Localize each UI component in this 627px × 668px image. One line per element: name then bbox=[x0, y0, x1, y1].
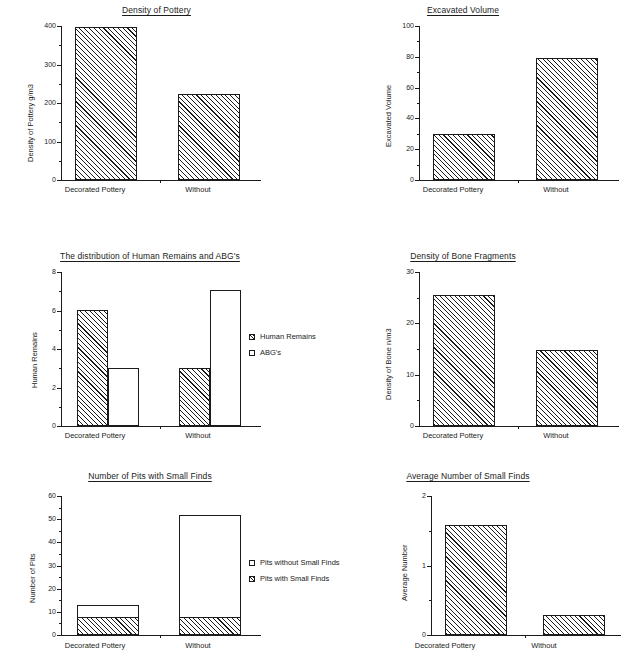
x-axis bbox=[61, 426, 261, 427]
y-minor-tick bbox=[59, 554, 62, 555]
y-minor-tick bbox=[429, 600, 432, 601]
y-minor-tick bbox=[59, 84, 62, 85]
bar-decorated-pottery bbox=[433, 295, 495, 426]
y-axis-title: Density of Pottery g/m3 bbox=[26, 84, 35, 162]
y-minor-tick bbox=[417, 72, 420, 73]
x-axis bbox=[419, 426, 619, 427]
y-tick-label: 8 bbox=[38, 268, 56, 275]
y-tick-label: 1 bbox=[408, 562, 426, 569]
x-category-label: Decorated Pottery bbox=[45, 431, 145, 440]
x-tick-divider bbox=[518, 426, 519, 429]
y-axis-title: Number of Pits bbox=[28, 553, 37, 603]
y-tick-0 bbox=[427, 635, 431, 636]
y-tick-6 bbox=[57, 311, 61, 312]
y-tick-100 bbox=[57, 142, 61, 143]
y-minor-tick bbox=[417, 298, 420, 299]
y-tick-1 bbox=[427, 566, 431, 567]
plot-area bbox=[61, 496, 261, 636]
y-tick-label: 20 bbox=[392, 319, 414, 326]
bar-without bbox=[543, 615, 605, 635]
y-tick-label: 200 bbox=[34, 99, 56, 106]
y-tick-label: 300 bbox=[34, 61, 56, 68]
legend-swatch-hatched-icon bbox=[249, 576, 255, 582]
y-minor-tick bbox=[417, 165, 420, 166]
legend-item-human-remains: Human Remains bbox=[249, 332, 316, 341]
y-minor-tick bbox=[429, 531, 432, 532]
chart-title: Density of Bone Fragments bbox=[333, 251, 593, 261]
y-axis bbox=[431, 496, 432, 636]
y-tick-40 bbox=[415, 118, 419, 119]
x-category-label: Decorated Pottery bbox=[395, 641, 495, 650]
y-tick-label: 0 bbox=[392, 176, 414, 183]
y-minor-tick bbox=[59, 531, 62, 532]
y-minor-tick bbox=[417, 103, 420, 104]
plot-area bbox=[61, 26, 261, 181]
x-category-label: Without bbox=[148, 185, 248, 194]
x-category-label: Without bbox=[506, 431, 606, 440]
y-axis bbox=[61, 26, 62, 181]
y-tick-0 bbox=[415, 180, 419, 181]
y-minor-tick bbox=[417, 349, 420, 350]
y-tick-label: 100 bbox=[34, 138, 56, 145]
y-tick-30 bbox=[57, 566, 61, 567]
bar-decorated-human-remains bbox=[77, 310, 108, 426]
plot-area bbox=[431, 496, 621, 636]
chart-panel-number-of-pits-with-small-finds: Number of Pits with Small Finds 60 50 40… bbox=[0, 468, 313, 668]
y-tick-label: 4 bbox=[38, 345, 56, 352]
x-axis bbox=[61, 635, 261, 636]
y-tick-label: 2 bbox=[408, 492, 426, 499]
y-tick-30 bbox=[415, 272, 419, 273]
y-tick-20 bbox=[57, 589, 61, 590]
x-axis bbox=[61, 180, 261, 181]
y-axis-title: Average Number bbox=[400, 544, 409, 601]
y-minor-tick bbox=[59, 407, 62, 408]
chart-title: The distribution of Human Remains and AB… bbox=[10, 251, 290, 261]
legend: Human Remains ABG's bbox=[249, 332, 316, 364]
y-tick-0 bbox=[57, 180, 61, 181]
y-minor-tick bbox=[417, 134, 420, 135]
y-tick-40 bbox=[57, 542, 61, 543]
bar-decorated-abgs bbox=[108, 368, 139, 426]
y-tick-label: 80 bbox=[392, 53, 414, 60]
y-minor-tick bbox=[417, 41, 420, 42]
y-axis bbox=[61, 272, 62, 427]
y-tick-label: 60 bbox=[392, 84, 414, 91]
y-tick-2 bbox=[57, 388, 61, 389]
y-tick-2 bbox=[427, 496, 431, 497]
y-tick-4 bbox=[57, 349, 61, 350]
y-tick-20 bbox=[415, 149, 419, 150]
legend-swatch-empty-icon bbox=[249, 350, 255, 356]
y-tick-8 bbox=[57, 272, 61, 273]
y-axis-title: Human Remains bbox=[30, 332, 39, 388]
x-tick-divider bbox=[525, 635, 526, 638]
bar-decorated-pottery bbox=[433, 134, 495, 180]
x-tick-divider bbox=[518, 180, 519, 183]
y-tick-label: 10 bbox=[36, 608, 56, 615]
y-axis bbox=[419, 272, 420, 427]
y-tick-label: 0 bbox=[392, 422, 414, 429]
y-tick-label: 40 bbox=[36, 538, 56, 545]
y-tick-10 bbox=[415, 375, 419, 376]
bar-decorated-with-small-finds bbox=[77, 617, 139, 635]
chart-title: Excavated Volume bbox=[333, 5, 593, 15]
x-tick-divider bbox=[160, 426, 161, 429]
y-tick-label: 6 bbox=[38, 307, 56, 314]
bar-without-with-small-finds bbox=[179, 617, 241, 635]
bar-without-human-remains bbox=[179, 368, 210, 426]
legend-label: Human Remains bbox=[260, 332, 316, 341]
x-category-label: Decorated Pottery bbox=[403, 185, 503, 194]
y-minor-tick bbox=[417, 400, 420, 401]
y-axis-title: Density of Bone n/m3 bbox=[384, 328, 393, 400]
y-tick-400 bbox=[57, 26, 61, 27]
x-tick-divider bbox=[160, 635, 161, 638]
plot-area bbox=[419, 26, 619, 181]
y-axis bbox=[419, 26, 420, 181]
y-tick-200 bbox=[57, 103, 61, 104]
y-tick-10 bbox=[57, 612, 61, 613]
x-category-label: Without bbox=[148, 641, 248, 650]
y-minor-tick bbox=[59, 508, 62, 509]
y-minor-tick bbox=[59, 330, 62, 331]
y-tick-label: 2 bbox=[38, 384, 56, 391]
y-tick-label: 30 bbox=[392, 268, 414, 275]
chart-title: Average Number of Small Finds bbox=[333, 471, 603, 481]
